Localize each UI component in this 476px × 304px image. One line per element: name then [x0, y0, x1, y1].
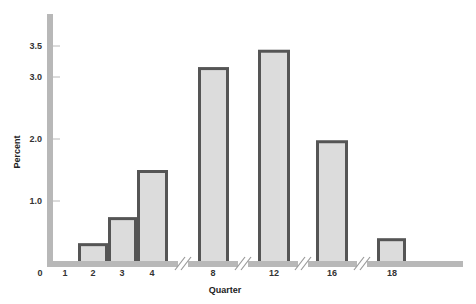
x-tick-label: 2	[90, 268, 95, 278]
bars-group	[80, 51, 405, 263]
x-tick-labels: 012348121618	[37, 268, 397, 278]
x-tick-label: 16	[327, 268, 337, 278]
y-axis	[47, 14, 53, 267]
x-axis-title: Quarter	[209, 285, 242, 295]
x-tick-label: 8	[210, 268, 215, 278]
y-tick-label: 1.0	[29, 196, 42, 206]
bar-quarter-2	[80, 245, 107, 263]
x-tick-label: 18	[387, 268, 397, 278]
y-ticks: 1.02.03.03.5	[29, 41, 60, 206]
x-tick-label: 1	[62, 268, 67, 278]
x-tick-label: 4	[149, 268, 154, 278]
x-tick-label: 12	[269, 268, 279, 278]
y-tick-label: 3.0	[29, 72, 42, 82]
x-tick-label: 3	[119, 268, 124, 278]
y-tick-label: 3.5	[29, 41, 42, 51]
y-axis-title: Percent	[12, 135, 22, 168]
bar-quarter-3	[110, 219, 136, 263]
bar-quarter-18	[379, 240, 405, 263]
bar-quarter-16	[318, 142, 347, 263]
bar-quarter-8	[200, 69, 228, 263]
bar-quarter-12	[260, 51, 289, 263]
x-tick-label: 0	[37, 268, 42, 278]
bar-chart: 1.02.03.03.5 012348121618 Quarter Percen…	[0, 0, 476, 304]
x-axis	[47, 261, 463, 267]
bar-quarter-4	[139, 172, 167, 264]
y-tick-label: 2.0	[29, 134, 42, 144]
